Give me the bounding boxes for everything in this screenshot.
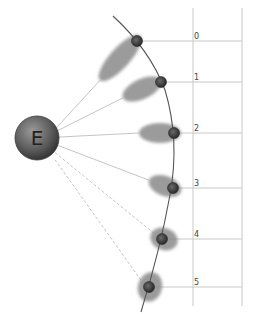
ray-line xyxy=(55,144,149,180)
position-dot xyxy=(144,282,155,293)
trajectory-diagram: 012345 E xyxy=(0,0,255,314)
position-dot xyxy=(169,128,180,139)
position-dot xyxy=(156,77,167,88)
rays-from-e xyxy=(55,80,156,283)
e-node: E xyxy=(15,116,59,160)
tick-label: 3 xyxy=(194,179,199,188)
tick-label: 5 xyxy=(194,278,199,287)
ray-line xyxy=(55,98,123,132)
blur-ellipse xyxy=(146,171,185,201)
position-dot xyxy=(168,183,179,194)
ray-line xyxy=(55,153,156,235)
tick-label: 4 xyxy=(194,230,199,239)
tick-label: 0 xyxy=(194,32,199,41)
tick-label: 1 xyxy=(194,73,199,82)
position-dot xyxy=(132,36,143,47)
position-dot xyxy=(157,234,168,245)
e-label: E xyxy=(31,126,44,150)
tick-labels: 012345 xyxy=(194,32,199,287)
ray-line xyxy=(55,160,143,283)
grid xyxy=(137,8,242,306)
ray-line xyxy=(55,80,100,129)
tick-label: 2 xyxy=(194,124,199,133)
blur-ellipse xyxy=(119,71,166,107)
motion-blur-shapes xyxy=(92,29,184,305)
ray-line xyxy=(55,133,139,137)
position-dots xyxy=(132,36,180,293)
